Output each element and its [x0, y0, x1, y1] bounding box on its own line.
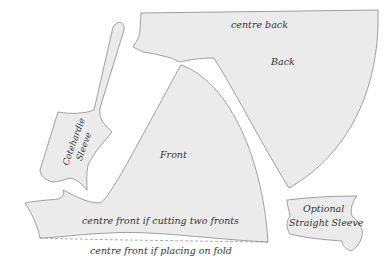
back-centre-label: centre back [231, 19, 288, 30]
front-fold-label: centre front if placing on fold [90, 245, 232, 256]
pattern-diagram: centre back Back Front centre front if c… [0, 0, 389, 261]
straight-sleeve-label-line1: Optional [303, 203, 344, 214]
back-label: Back [270, 56, 295, 67]
straight-sleeve-label-line2: Straight Sleeve [289, 217, 364, 228]
front-label: Front [159, 149, 187, 160]
front-centre-two-label: centre front if cutting two fronts [82, 215, 239, 226]
straight-sleeve-piece: Optional Straight Sleeve [287, 196, 364, 251]
cotehardie-sleeve-shape [40, 22, 124, 190]
cotehardie-sleeve-piece: Cotehardie Sleeve [40, 22, 124, 190]
